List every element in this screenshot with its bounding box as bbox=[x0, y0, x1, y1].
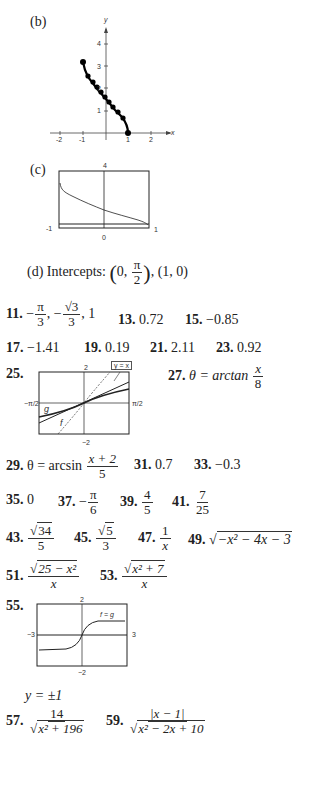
answer-23: 23. 0.92 bbox=[216, 340, 262, 356]
answer-value: 0.7 bbox=[155, 457, 173, 472]
answer-value: 0 bbox=[27, 492, 34, 507]
answer-value: −0.3 bbox=[215, 457, 240, 472]
answer-15: 15. −0.85 bbox=[185, 312, 238, 328]
answer-number: 33. bbox=[194, 457, 212, 472]
answer-19: 19. 0.19 bbox=[84, 340, 130, 356]
answer-55-number: 55. bbox=[6, 598, 24, 614]
answer-number: 13. bbox=[118, 312, 136, 327]
answer-53: 53. √x² + 7x bbox=[100, 562, 168, 591]
part-d: (d) Intercepts: (0, π2), (1, 0) bbox=[27, 258, 188, 287]
x-tick-2: 2 bbox=[149, 136, 153, 143]
answer-number: 27. bbox=[168, 368, 186, 383]
answer-25-number: 25. bbox=[6, 366, 24, 382]
answer-number: 57. bbox=[6, 713, 24, 728]
answer-number: 35. bbox=[6, 492, 24, 507]
frac-den: x bbox=[160, 539, 170, 553]
sign: − bbox=[79, 494, 87, 509]
answer-number: 37. bbox=[58, 494, 76, 509]
answer-37: 37. −π6 bbox=[58, 488, 99, 517]
answer-31: 31. 0.7 bbox=[134, 457, 173, 473]
lhs: θ = arcsin bbox=[27, 458, 82, 473]
frac-den: 3 bbox=[101, 539, 112, 553]
frac-den: x² − 2x + 10 bbox=[137, 720, 204, 736]
frac-num: 25 − x² bbox=[37, 560, 77, 576]
graph25-xmin: −π/2 bbox=[24, 400, 39, 407]
intercept1-num: π bbox=[132, 258, 143, 273]
answer-number: 29. bbox=[6, 458, 24, 473]
answer-number: 59. bbox=[106, 713, 124, 728]
answer-number: 17. bbox=[6, 340, 24, 355]
part-c-label: (c) bbox=[30, 162, 46, 178]
graph25-xmax: π/2 bbox=[132, 400, 143, 407]
frac-num: x + 2 bbox=[87, 452, 119, 467]
frac-den: 6 bbox=[88, 503, 99, 517]
frac-den: 5 bbox=[36, 539, 47, 553]
answer-27: 27. θ = arctan x8 bbox=[168, 362, 264, 391]
answer-value: 0.72 bbox=[139, 312, 164, 327]
y-tick-1: 1 bbox=[97, 107, 101, 114]
frac-num: 4 bbox=[142, 488, 153, 503]
frac-num: 34 bbox=[37, 522, 52, 538]
part-b-graph bbox=[40, 15, 190, 150]
graph55-ymax: 2 bbox=[80, 596, 84, 603]
window-ymax: 4 bbox=[103, 162, 107, 169]
y-tick-2: 2 bbox=[97, 85, 101, 92]
graph25-label-f: f bbox=[60, 418, 63, 428]
answer-55-graph bbox=[36, 603, 131, 668]
intercept2: , (1, 0) bbox=[151, 264, 188, 279]
answer-number: 49. bbox=[188, 532, 206, 547]
frac-den: 5 bbox=[97, 467, 108, 481]
answer-21: 21. 2.11 bbox=[150, 340, 195, 356]
answer-57: 57. 14√x² + 196 bbox=[6, 707, 87, 736]
y-tick-4: 4 bbox=[97, 40, 101, 47]
answer-41: 41. 725 bbox=[172, 488, 212, 517]
graph55-xmin: −3 bbox=[27, 631, 35, 638]
answer-11: 11. −π3, −√33, 1 bbox=[6, 300, 95, 329]
intercept1-prefix: 0, bbox=[117, 264, 128, 279]
answer-number: 15. bbox=[185, 312, 203, 327]
sign: − bbox=[26, 306, 34, 321]
frac-den: 8 bbox=[253, 377, 264, 391]
graph55-legend: f = g bbox=[100, 611, 114, 618]
answer-number: 21. bbox=[150, 340, 168, 355]
y-tick-3: 3 bbox=[97, 63, 101, 70]
frac-num: x² + 7 bbox=[131, 560, 164, 576]
answer-number: 51. bbox=[6, 568, 24, 583]
answer-number: 19. bbox=[84, 340, 102, 355]
frac-num: π bbox=[88, 488, 99, 503]
frac-den: 3 bbox=[66, 315, 77, 329]
answer-59: 59. |x − 1|√x² − 2x + 10 bbox=[106, 707, 208, 736]
window-origin: 0 bbox=[102, 234, 106, 241]
frac-den: 3 bbox=[35, 315, 46, 329]
answer-number: 45. bbox=[74, 530, 92, 545]
graph25-ymax: 2 bbox=[84, 364, 88, 371]
frac-num: √3 bbox=[63, 300, 81, 315]
part-d-text: Intercepts: bbox=[47, 264, 106, 279]
radicand: −x² − 4x − 3 bbox=[217, 531, 292, 547]
frac-den: 25 bbox=[194, 503, 211, 517]
frac-den: x bbox=[139, 577, 149, 591]
answer-43: 43. √345 bbox=[6, 524, 55, 553]
answer-25-graph bbox=[38, 371, 133, 436]
answer-51: 51. √25 − x²x bbox=[6, 562, 80, 591]
tail: , 1 bbox=[81, 306, 95, 321]
frac-den: 5 bbox=[142, 503, 153, 517]
frac-den: x² + 196 bbox=[37, 720, 83, 736]
lhs: θ = arctan bbox=[189, 368, 248, 383]
answer-value: −1.41 bbox=[27, 340, 59, 355]
x-tick-neg1: -1 bbox=[79, 136, 85, 143]
answer-47: 47. 1x bbox=[138, 524, 172, 553]
y-axis-label: y bbox=[104, 16, 108, 23]
answer-number: 43. bbox=[6, 530, 24, 545]
window-xmin: -1 bbox=[46, 225, 52, 232]
graph25-label-g: g bbox=[44, 404, 49, 414]
answer-number: 47. bbox=[138, 530, 156, 545]
intercept1-den: 2 bbox=[132, 273, 143, 287]
answer-value: −0.85 bbox=[206, 312, 238, 327]
answer-13: 13. 0.72 bbox=[118, 312, 164, 328]
answer-33: 33. −0.3 bbox=[194, 457, 240, 473]
answer-number: 53. bbox=[100, 568, 118, 583]
answer-number: 31. bbox=[134, 457, 152, 472]
answer-45: 45. √53 bbox=[74, 524, 117, 553]
answer-value: 0.19 bbox=[105, 340, 130, 355]
